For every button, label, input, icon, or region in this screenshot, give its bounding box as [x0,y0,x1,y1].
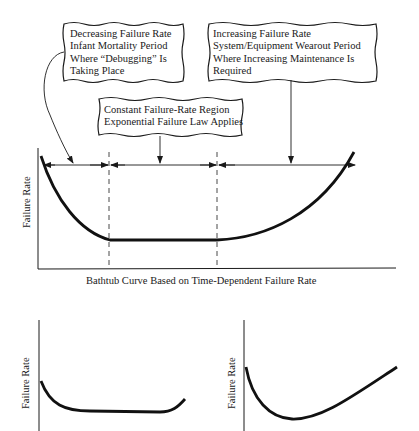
box-line: Where Increasing Maintenance Is [213,53,361,65]
box-line: Constant Failure-Rate Region [104,104,243,116]
box-line: Taking Place [70,65,171,77]
decreasing-box-text: Decreasing Failure Rate Infant Mortality… [70,28,171,77]
box-line: Required [213,65,361,77]
bottom-left-y-axis-label: Failure Rate [20,357,31,409]
region-dividers [109,152,217,268]
main-y-axis-label: Failure Rate [21,176,32,228]
box-line: System/Equipment Wearout Period [213,40,361,52]
constant-box-text: Constant Failure-Rate Region Exponential… [104,104,243,129]
main-chart-caption: Bathtub Curve Based on Time-Dependent Fa… [86,275,316,286]
box-line: Infant Mortality Period [70,40,171,52]
box-line: Exponential Failure Law Applies [104,116,243,128]
bottom-left-curve [41,381,185,412]
box-line: Increasing Failure Rate [213,28,361,40]
bottom-right-y-axis-label: Failure Rate [226,357,237,409]
box-line: Where “Debugging” Is [70,53,171,65]
box-line: Decreasing Failure Rate [70,28,171,40]
bottom-right-curve [246,367,397,419]
increasing-box-text: Increasing Failure Rate System/Equipment… [213,28,361,77]
decreasing-leader-arrow [44,52,73,163]
